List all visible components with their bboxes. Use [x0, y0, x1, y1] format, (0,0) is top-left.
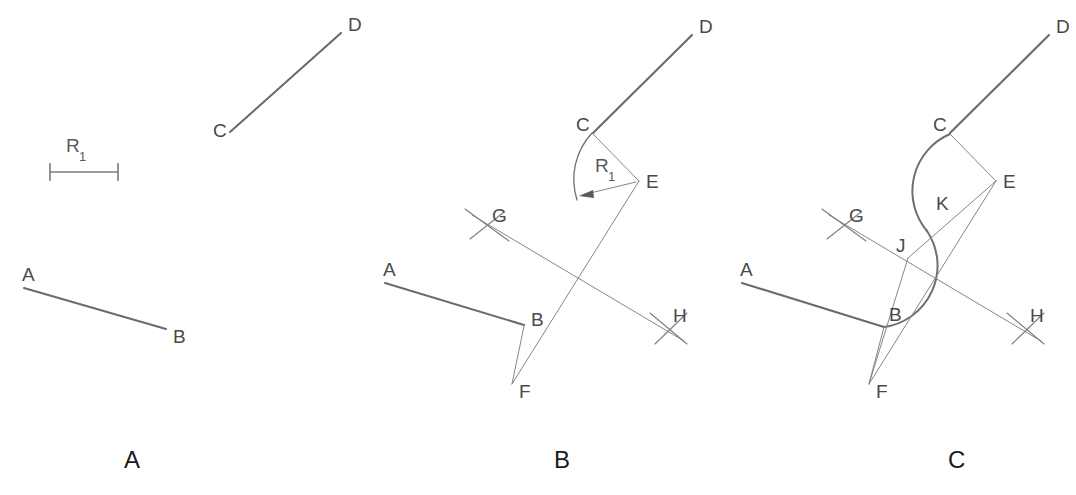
- panel-a-line-cd: [230, 33, 341, 132]
- panel-b-point-label-b: B: [531, 309, 544, 330]
- panel-c-line-ef: [869, 181, 996, 384]
- panel-b-line-ef: [512, 181, 639, 384]
- panel-c-point-label-h: H: [1030, 305, 1044, 326]
- panel-b-line-ab: [385, 283, 524, 325]
- panel-b-point-label-c: C: [576, 114, 590, 135]
- panel-c-point-label-j: J: [896, 235, 906, 256]
- panel-b-point-label-g: G: [492, 205, 507, 226]
- panel-b-radius-arc: [574, 133, 592, 200]
- panel-c-line-cd: [950, 35, 1049, 133]
- panel-b-point-label-d: D: [699, 16, 713, 37]
- panel-c-group: A B C D E F G H J K C: [740, 16, 1070, 473]
- panel-a-radius-subscript: 1: [79, 149, 86, 164]
- panel-b-line-gh: [472, 215, 684, 341]
- panel-a-point-label-b: B: [173, 326, 186, 347]
- panel-c-line-ab: [742, 283, 884, 327]
- panel-c-point-label-g: G: [849, 205, 864, 226]
- panel-a-point-label-a: A: [22, 264, 35, 285]
- panel-b-point-label-f: F: [519, 381, 531, 402]
- panel-b-point-label-e: E: [646, 171, 659, 192]
- panel-b-radius-dimension: [579, 182, 636, 198]
- panel-c-point-label-e: E: [1003, 171, 1016, 192]
- panel-c-point-label-a: A: [740, 259, 753, 280]
- panel-c-point-label-k: K: [936, 193, 949, 214]
- panel-a-group: R 1 A B C D A: [22, 14, 362, 473]
- panel-b-radius-symbol: R: [595, 155, 609, 176]
- panel-c-line-ce: [950, 134, 996, 181]
- panel-label-b: B: [554, 446, 570, 473]
- technical-drawing-canvas: R 1 A B C D A: [0, 0, 1076, 495]
- panel-c-point-label-b: B: [889, 304, 902, 325]
- drawing-sheet: R 1 A B C D A: [0, 0, 1076, 495]
- panel-a-point-label-d: D: [348, 14, 362, 35]
- panel-c-point-label-f: F: [876, 381, 888, 402]
- panel-c-point-label-c: C: [933, 114, 947, 135]
- panel-b-point-label-h: H: [673, 305, 687, 326]
- panel-b-point-label-a: A: [383, 259, 396, 280]
- radius-arrow-head: [579, 190, 594, 198]
- panel-b-line-cd: [593, 35, 692, 133]
- panel-a-radius-scale-bar: [50, 163, 118, 181]
- panel-c-ogee-arc-upper: [912, 134, 950, 231]
- panel-c-point-label-d: D: [1056, 16, 1070, 37]
- panel-b-radius-subscript: 1: [608, 169, 615, 184]
- panel-label-a: A: [124, 446, 140, 473]
- panel-c-line-ej: [908, 181, 996, 258]
- panel-a-point-label-c: C: [213, 120, 227, 141]
- panel-a-radius-symbol: R: [66, 135, 80, 156]
- panel-b-group: R 1 A B C D E F G H B: [383, 16, 713, 473]
- panel-label-c: C: [948, 446, 965, 473]
- panel-a-line-ab: [24, 288, 166, 329]
